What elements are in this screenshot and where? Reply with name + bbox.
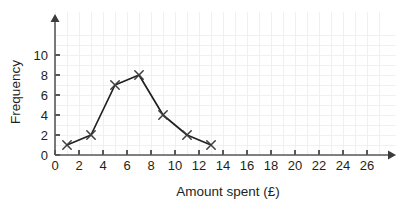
x-axis-title: Amount spent (£) xyxy=(176,184,280,199)
frequency-polygon-chart: 02468101214161820222426 0246810 Amount s… xyxy=(0,0,408,205)
y-tick-label: 8 xyxy=(41,68,48,83)
x-tick-label: 6 xyxy=(123,158,130,173)
x-tick-label: 26 xyxy=(360,158,374,173)
x-tick-label: 16 xyxy=(240,158,254,173)
y-tick-label: 6 xyxy=(41,88,48,103)
x-tick-label: 18 xyxy=(264,158,278,173)
x-tick-label: 10 xyxy=(168,158,182,173)
x-tick-label: 2 xyxy=(75,158,82,173)
x-tick-label: 24 xyxy=(336,158,350,173)
x-tick-label: 4 xyxy=(99,158,106,173)
x-tick-label: 0 xyxy=(51,158,58,173)
x-tick-label: 8 xyxy=(147,158,154,173)
y-tick-label: 0 xyxy=(41,148,48,163)
x-tick-label: 14 xyxy=(216,158,230,173)
y-tick-label: 4 xyxy=(41,108,48,123)
x-tick-label: 22 xyxy=(312,158,326,173)
x-tick-label: 12 xyxy=(192,158,206,173)
y-tick-label: 2 xyxy=(41,128,48,143)
chart-canvas: 02468101214161820222426 0246810 Amount s… xyxy=(0,0,408,205)
y-tick-label: 10 xyxy=(34,48,48,63)
chart-background xyxy=(0,0,408,205)
x-tick-label: 20 xyxy=(288,158,302,173)
y-axis-title: Frequency xyxy=(8,60,23,124)
